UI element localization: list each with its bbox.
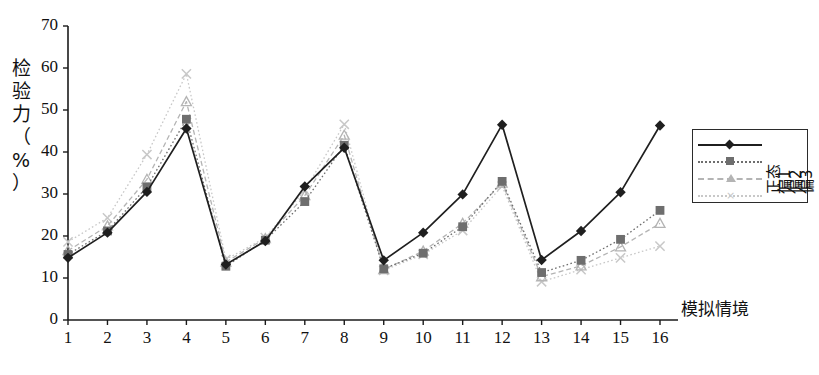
- data-point-square: [379, 264, 388, 273]
- triangle-marker: [726, 174, 736, 182]
- series-line-偏1: [68, 119, 660, 272]
- legend-label-column: 正态偏1偏2偏3: [763, 130, 809, 204]
- data-point-x: [655, 241, 664, 250]
- data-point-square: [182, 115, 191, 124]
- data-point-square: [537, 268, 546, 277]
- legend-label-text: 偏3: [800, 169, 815, 194]
- data-point-x: [616, 253, 625, 262]
- data-point-square: [656, 206, 665, 215]
- data-point-diamond: [497, 120, 507, 130]
- legend-entry[interactable]: [698, 138, 764, 152]
- legend-entry[interactable]: [698, 172, 764, 186]
- data-point-square: [419, 249, 428, 258]
- data-point-square: [577, 256, 586, 265]
- legend-entry[interactable]: ×: [698, 189, 764, 203]
- legend-entry[interactable]: [698, 155, 764, 169]
- data-point-square: [458, 222, 467, 231]
- legend-label: 偏3: [800, 136, 819, 154]
- data-point-square: [498, 177, 507, 186]
- data-point-square: [616, 235, 625, 244]
- data-point-x: [182, 69, 191, 78]
- legend: × 正态偏1偏2偏3: [692, 129, 808, 203]
- diamond-marker: [725, 140, 735, 150]
- data-point-diamond: [655, 120, 665, 130]
- data-point-square: [300, 197, 309, 206]
- data-point-x: [340, 120, 349, 129]
- series-line-正态: [68, 125, 660, 265]
- data-point-x: [142, 150, 151, 159]
- series-line-偏3: [68, 74, 660, 282]
- x-marker: ×: [726, 191, 735, 200]
- square-marker: [726, 157, 734, 165]
- series-line-偏2: [68, 102, 660, 277]
